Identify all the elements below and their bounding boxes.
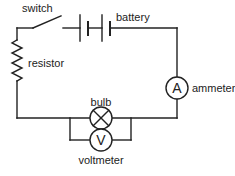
caption-text: ...	[112, 171, 121, 176]
circuit-diagram: switch battery A ammeter resistor bulb	[0, 0, 235, 176]
bulb-symbol	[90, 107, 112, 129]
voltmeter-label: voltmeter	[78, 154, 124, 166]
resistor-label: resistor	[28, 57, 64, 69]
voltmeter-symbol-letter: V	[96, 132, 106, 148]
bulb-label: bulb	[91, 96, 112, 108]
ammeter-symbol: A	[166, 77, 188, 99]
ammeter-label: ammeter	[192, 82, 235, 94]
caption-cut-off: ...	[112, 171, 121, 176]
voltmeter-symbol: V	[90, 129, 112, 151]
ammeter-symbol-letter: A	[172, 80, 182, 96]
left-wire	[12, 28, 22, 118]
switch-symbol	[17, 16, 61, 28]
switch-label: switch	[22, 2, 53, 14]
resistor-symbol	[12, 40, 22, 81]
battery-symbol	[80, 15, 110, 41]
battery-label: battery	[116, 11, 150, 23]
